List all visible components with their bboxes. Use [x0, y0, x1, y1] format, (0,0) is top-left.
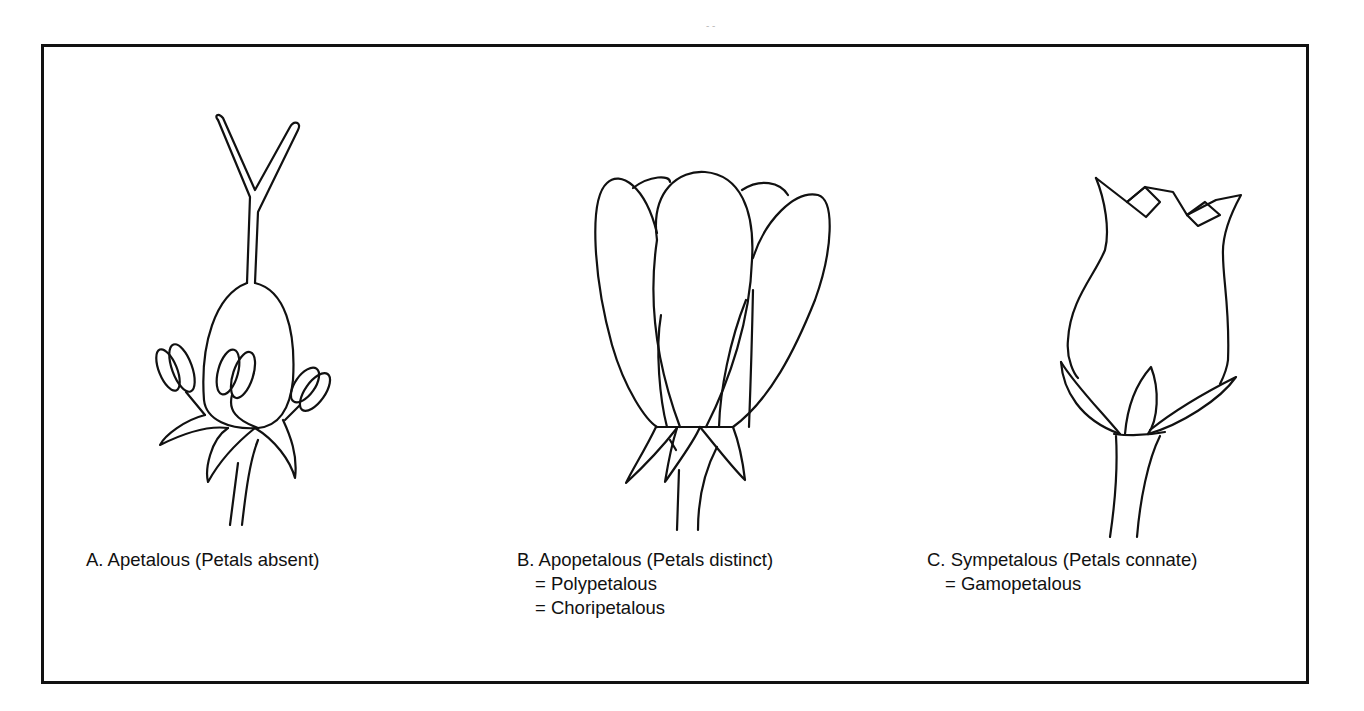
apetalous-flower-illustration [151, 115, 335, 525]
caption-b-line-1: B. Apopetalous (Petals distinct) [517, 548, 773, 572]
sympetalous-flower-illustration [1061, 178, 1241, 537]
caption-sympetalous: C. Sympetalous (Petals connate) = Gamope… [927, 548, 1197, 596]
caption-b-line-2: = Polypetalous [517, 572, 773, 596]
apopetalous-flower-illustration [595, 172, 829, 530]
caption-apopetalous: B. Apopetalous (Petals distinct) = Polyp… [517, 548, 773, 620]
caption-c-line-2: = Gamopetalous [927, 572, 1197, 596]
caption-apetalous: A. Apetalous (Petals absent) [86, 548, 319, 572]
caption-c-line-1: C. Sympetalous (Petals connate) [927, 548, 1197, 572]
caption-b-line-3: = Choripetalous [517, 596, 773, 620]
caption-a-line-1: A. Apetalous (Petals absent) [86, 548, 319, 572]
